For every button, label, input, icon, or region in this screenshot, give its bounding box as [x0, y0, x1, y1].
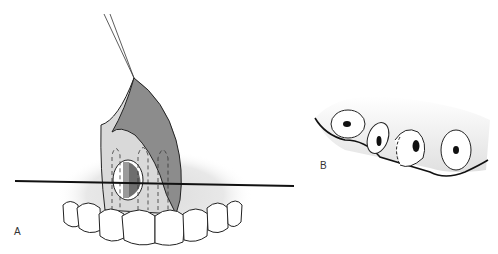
- panel-label-b: B: [320, 160, 327, 171]
- panel-label-a: A: [14, 226, 21, 237]
- panel-b: [315, 96, 490, 176]
- suture-thread: [104, 14, 134, 78]
- diagram-canvas: [0, 0, 498, 254]
- panel-a: [15, 14, 294, 245]
